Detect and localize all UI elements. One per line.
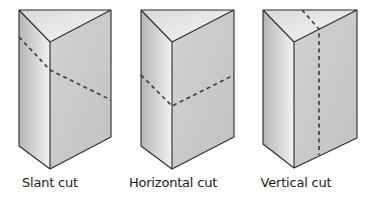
prism-slant-cut [19,10,111,169]
prism-horizontal-cut [141,10,234,169]
prism-drawings [0,0,373,197]
prism-vertical-cut [263,10,357,168]
label-vertical-cut: Vertical cut [261,175,332,190]
triangular-prism-cuts-figure: Slant cut Horizontal cut Vertical cut [0,0,373,197]
label-horizontal-cut: Horizontal cut [129,175,217,190]
label-slant-cut: Slant cut [22,175,78,190]
